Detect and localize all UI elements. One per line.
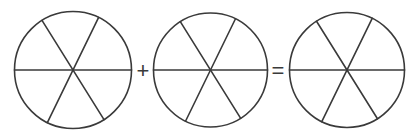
fraction-equation-diagram: + = (0, 0, 415, 138)
diagram-canvas (0, 0, 415, 138)
sector-circle-1 (15, 12, 132, 129)
sector-circle-2 (154, 13, 268, 127)
equals-sign: = (272, 60, 285, 82)
plus-sign: + (137, 60, 150, 82)
sector-circle-3 (290, 13, 405, 128)
